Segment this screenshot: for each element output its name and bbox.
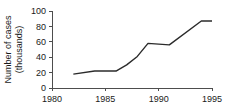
y-axis-title-line-2: (thousands) xyxy=(14,26,24,74)
x-axis-tick-label: 1990 xyxy=(149,94,169,104)
y-axis-tick-label: 20 xyxy=(36,68,46,78)
y-axis-tick-label: 80 xyxy=(36,22,46,32)
chart-canvas: 020406080100 1980198519901995 Number of … xyxy=(0,0,229,108)
y-axis: 020406080100 xyxy=(31,6,52,93)
x-axis-tick-label: 1985 xyxy=(95,94,115,104)
line-chart: 020406080100 1980198519901995 Number of … xyxy=(0,0,229,108)
x-axis-tick-labels: 1980198519901995 xyxy=(42,94,222,104)
x-axis-tick-label: 1995 xyxy=(202,94,222,104)
y-axis-tick-label: 60 xyxy=(36,37,46,47)
y-axis-tick-label: 0 xyxy=(41,83,46,93)
y-axis-title: Number of cases (thousands) xyxy=(3,15,24,84)
data-series-line xyxy=(73,21,212,74)
x-axis-tick-label: 1980 xyxy=(42,94,62,104)
y-axis-tick-labels: 020406080100 xyxy=(31,6,46,93)
y-axis-tick-label: 100 xyxy=(31,6,46,16)
x-axis: 1980198519901995 xyxy=(42,88,222,104)
y-axis-tick-label: 40 xyxy=(36,52,46,62)
y-axis-title-line-1: Number of cases xyxy=(3,15,13,84)
